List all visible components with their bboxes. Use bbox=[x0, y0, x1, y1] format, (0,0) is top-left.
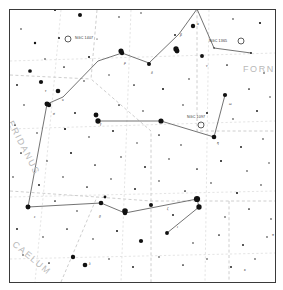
star bbox=[134, 188, 136, 190]
deep-sky-objects bbox=[65, 36, 244, 128]
star bbox=[16, 228, 18, 230]
star bbox=[20, 152, 22, 154]
star-designation-label: π bbox=[272, 233, 274, 237]
star bbox=[256, 110, 258, 112]
star bbox=[94, 164, 96, 166]
star bbox=[191, 24, 195, 28]
star bbox=[192, 242, 194, 244]
star bbox=[26, 205, 31, 210]
star bbox=[168, 158, 170, 160]
star-designation-label: ι bbox=[177, 225, 178, 229]
star bbox=[200, 54, 204, 58]
sky-canvas bbox=[10, 10, 275, 282]
star bbox=[63, 66, 65, 68]
star-designation-label: κ bbox=[244, 268, 246, 272]
star bbox=[236, 192, 238, 194]
star bbox=[223, 93, 227, 97]
star bbox=[142, 110, 144, 112]
star bbox=[254, 258, 256, 260]
star bbox=[12, 176, 14, 178]
star bbox=[188, 78, 190, 80]
star-designation-label: δ bbox=[151, 71, 153, 75]
star-designation-label: τ bbox=[45, 89, 46, 93]
star bbox=[48, 262, 50, 264]
star bbox=[42, 236, 44, 238]
star bbox=[269, 96, 270, 97]
star bbox=[174, 34, 176, 36]
star bbox=[266, 236, 268, 238]
star bbox=[99, 201, 104, 206]
star bbox=[14, 124, 16, 126]
star bbox=[133, 84, 135, 86]
star-field bbox=[12, 10, 272, 268]
star bbox=[144, 166, 146, 168]
star bbox=[64, 128, 66, 130]
star bbox=[88, 136, 90, 138]
star bbox=[226, 64, 228, 66]
star bbox=[20, 28, 22, 30]
star bbox=[94, 113, 99, 118]
galaxy-marker bbox=[65, 36, 71, 42]
dso-label: NGC 1097 bbox=[187, 115, 205, 119]
star bbox=[218, 234, 220, 236]
star bbox=[38, 184, 40, 186]
star bbox=[230, 266, 232, 268]
star-chart-root: FORNAXERIDANUSCAELUMNGC 1407NGC 1365NGC … bbox=[0, 0, 283, 290]
star bbox=[206, 258, 208, 260]
star bbox=[78, 13, 82, 17]
star bbox=[180, 144, 182, 146]
star bbox=[270, 218, 272, 220]
chart-frame: FORNAXERIDANUSCAELUMNGC 1407NGC 1365NGC … bbox=[9, 9, 276, 283]
star bbox=[76, 210, 78, 212]
star bbox=[110, 178, 112, 180]
star bbox=[86, 186, 88, 188]
star bbox=[260, 184, 262, 186]
star bbox=[70, 152, 72, 154]
star bbox=[248, 88, 250, 90]
star bbox=[136, 142, 137, 143]
star bbox=[194, 196, 200, 202]
star bbox=[120, 156, 122, 158]
star-designation-label: μ bbox=[124, 61, 126, 65]
star bbox=[248, 208, 250, 210]
star bbox=[22, 254, 24, 256]
star bbox=[45, 102, 50, 107]
galaxy-marker bbox=[238, 38, 244, 44]
star bbox=[196, 204, 201, 209]
star bbox=[149, 203, 153, 207]
star bbox=[224, 216, 226, 218]
star bbox=[220, 160, 222, 162]
star bbox=[250, 52, 252, 54]
star bbox=[158, 256, 160, 258]
star bbox=[182, 264, 184, 266]
star bbox=[158, 180, 160, 182]
dso-label: NGC 1407 bbox=[75, 36, 93, 40]
star bbox=[116, 230, 118, 232]
star bbox=[71, 255, 75, 259]
star bbox=[158, 118, 163, 123]
star bbox=[118, 48, 123, 53]
star bbox=[140, 12, 141, 13]
star bbox=[122, 208, 128, 214]
star bbox=[28, 69, 32, 73]
star bbox=[172, 214, 174, 216]
star bbox=[108, 258, 110, 260]
star bbox=[34, 42, 36, 44]
star bbox=[158, 134, 160, 136]
star bbox=[196, 168, 198, 170]
star bbox=[246, 170, 248, 172]
star bbox=[56, 89, 61, 94]
star bbox=[36, 132, 38, 134]
star bbox=[162, 88, 164, 90]
star bbox=[213, 47, 215, 49]
star bbox=[23, 104, 25, 106]
star bbox=[112, 130, 114, 132]
star bbox=[46, 160, 48, 162]
star bbox=[39, 80, 43, 84]
star bbox=[182, 104, 184, 106]
star bbox=[139, 239, 143, 243]
star-designation-label: ζ bbox=[167, 207, 168, 211]
star bbox=[108, 74, 109, 75]
star bbox=[83, 263, 88, 268]
star bbox=[92, 238, 94, 240]
